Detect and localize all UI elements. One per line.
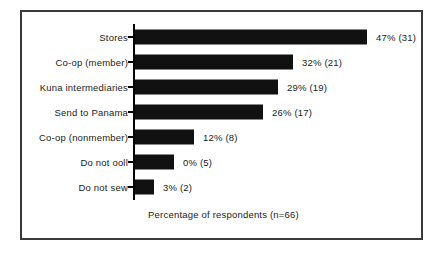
- bar-value-label: 0% (5): [183, 156, 212, 167]
- bar-value-label: 29% (19): [287, 81, 327, 92]
- axis-caption: Percentage of respondents (n=66): [22, 209, 425, 220]
- axis-tick: [128, 86, 133, 88]
- bar: [135, 179, 154, 194]
- category-label: Do not ooll: [80, 156, 128, 167]
- axis-tick: [128, 186, 133, 188]
- chart-frame: Stores 47% (31) Co-op (member) 32% (21) …: [20, 10, 423, 240]
- bar: [135, 54, 293, 69]
- category-label: Co-op (nonmember): [39, 131, 128, 142]
- bar: [135, 154, 174, 169]
- bar-row: Co-op (member) 32% (21): [22, 49, 425, 74]
- category-label: Kuna intermediaries: [40, 81, 128, 92]
- bar-row: Kuna intermediaries 29% (19): [22, 74, 425, 99]
- bar-group: 47% (31): [135, 29, 416, 44]
- bar: [135, 129, 194, 144]
- axis-tick: [128, 136, 133, 138]
- bar-group: 32% (21): [135, 54, 342, 69]
- bar-value-label: 32% (21): [302, 56, 342, 67]
- bar-group: 26% (17): [135, 104, 312, 119]
- bar-value-label: 26% (17): [272, 106, 312, 117]
- figure: Stores 47% (31) Co-op (member) 32% (21) …: [0, 0, 444, 255]
- bar: [135, 104, 263, 119]
- bar-group: 0% (5): [135, 154, 212, 169]
- bar-value-label: 12% (8): [203, 131, 238, 142]
- category-label: Co-op (member): [56, 56, 128, 67]
- axis-tick: [128, 36, 133, 38]
- bar-value-label: 47% (31): [376, 31, 416, 42]
- bar-row: Co-op (nonmember) 12% (8): [22, 124, 425, 149]
- bar-group: 12% (8): [135, 129, 238, 144]
- bar: [135, 29, 367, 44]
- axis-tick: [128, 161, 133, 163]
- bar-value-label: 3% (2): [163, 181, 192, 192]
- category-label: Send to Panama: [54, 106, 128, 117]
- bar-row: Stores 47% (31): [22, 24, 425, 49]
- bar-row: Do not sew 3% (2): [22, 174, 425, 199]
- axis-tick: [128, 61, 133, 63]
- bar-group: 29% (19): [135, 79, 327, 94]
- bar-row: Send to Panama 26% (17): [22, 99, 425, 124]
- category-label: Stores: [99, 31, 128, 42]
- category-label: Do not sew: [78, 181, 128, 192]
- bar: [135, 79, 278, 94]
- axis-tick: [128, 111, 133, 113]
- plot-area: Stores 47% (31) Co-op (member) 32% (21) …: [22, 12, 425, 242]
- bar-group: 3% (2): [135, 179, 192, 194]
- bar-row: Do not ooll 0% (5): [22, 149, 425, 174]
